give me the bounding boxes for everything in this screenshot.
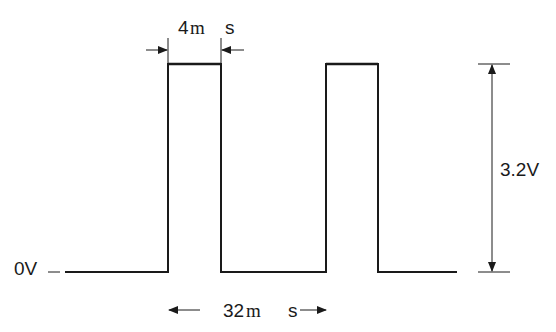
amplitude-dimension: 3.2V: [478, 64, 539, 272]
baseline-label-group: 0V: [14, 258, 60, 279]
period-value: 32: [223, 300, 244, 321]
amplitude-label: 3.2V: [500, 159, 539, 180]
pulse-width-dimension: 4 m s: [146, 17, 244, 64]
period-unit: s: [288, 300, 298, 321]
period-prefix: m: [246, 300, 261, 321]
period-dimension: 32 m s: [169, 300, 326, 321]
square-wave: [65, 64, 457, 272]
pulse-width-prefix: m: [190, 17, 205, 38]
baseline-label: 0V: [14, 258, 38, 279]
waveform-diagram: 4 m s 32 m s 3.2V 0V: [0, 0, 556, 332]
pulse-width-unit: s: [225, 17, 235, 38]
pulse-width-value: 4: [178, 17, 189, 38]
